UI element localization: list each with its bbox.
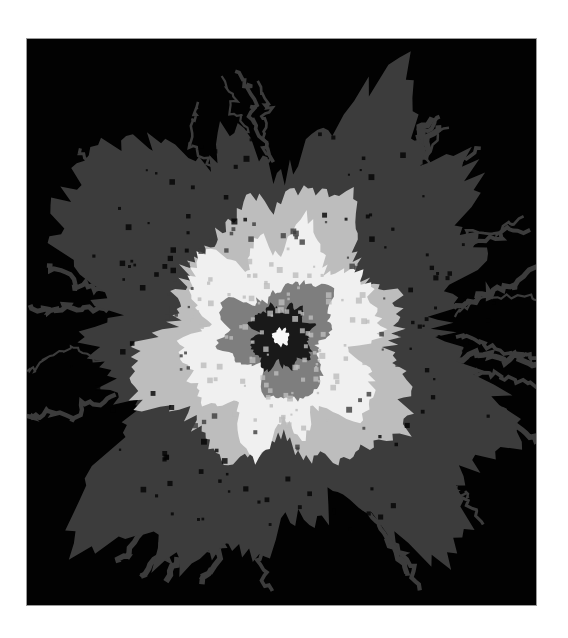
texture-speckle xyxy=(191,185,195,189)
texture-speckle xyxy=(321,332,326,337)
texture-speckle xyxy=(326,292,332,298)
texture-speckle xyxy=(168,256,173,261)
texture-speckle xyxy=(253,430,257,434)
texture-speckle xyxy=(345,218,348,221)
texture-speckle xyxy=(492,301,495,304)
texture-speckle xyxy=(384,246,386,248)
texture-speckle xyxy=(287,396,293,402)
texture-speckle xyxy=(227,293,230,296)
texture-speckle xyxy=(378,435,381,438)
texture-speckle xyxy=(426,253,429,256)
texture-speckle xyxy=(362,157,366,161)
texture-speckle xyxy=(148,222,150,224)
texture-speckle xyxy=(191,287,194,290)
texture-speckle xyxy=(243,296,246,299)
texture-speckle xyxy=(130,260,133,263)
texture-speckle xyxy=(207,378,213,384)
texture-speckle xyxy=(169,405,174,410)
texture-speckle xyxy=(350,317,355,322)
texture-speckle xyxy=(184,352,187,355)
texture-speckle xyxy=(319,353,325,359)
texture-speckle xyxy=(120,349,125,354)
texture-speckle xyxy=(326,419,328,421)
texture-speckle xyxy=(287,248,290,251)
texture-speckle xyxy=(422,195,424,197)
texture-speckle xyxy=(217,364,223,370)
texture-speckle xyxy=(207,282,210,285)
texture-speckle xyxy=(214,377,218,381)
texture-speckle xyxy=(270,404,273,407)
texture-speckle xyxy=(243,324,248,329)
texture-speckle xyxy=(202,518,205,521)
texture-speckle xyxy=(486,318,490,322)
texture-speckle xyxy=(199,469,204,474)
texture-speckle xyxy=(349,528,352,531)
texture-speckle xyxy=(234,165,238,169)
texture-speckle xyxy=(304,344,308,348)
texture-speckle xyxy=(171,512,174,515)
texture-speckle xyxy=(330,385,336,391)
texture-speckle xyxy=(111,407,116,412)
texture-speckle xyxy=(146,169,148,171)
texture-speckle xyxy=(347,257,349,259)
texture-speckle xyxy=(162,264,167,269)
texture-speckle xyxy=(218,479,221,482)
texture-speckle xyxy=(267,311,273,317)
texture-speckle xyxy=(315,366,317,368)
texture-speckle xyxy=(318,360,320,362)
texture-speckle xyxy=(281,415,285,419)
texture-speckle xyxy=(344,344,347,347)
texture-speckle xyxy=(358,398,362,402)
texture-speckle xyxy=(130,341,135,346)
texture-speckle xyxy=(398,333,401,336)
texture-speckle xyxy=(370,487,373,490)
texture-speckle xyxy=(269,523,272,526)
texture-speckle xyxy=(425,317,429,321)
texture-speckle xyxy=(430,266,434,270)
texture-speckle xyxy=(391,228,394,231)
texture-speckle xyxy=(463,298,466,301)
texture-speckle xyxy=(232,227,236,231)
texture-speckle xyxy=(250,357,256,363)
texture-speckle xyxy=(341,299,343,301)
texture-speckle xyxy=(362,427,365,430)
texture-speckle xyxy=(405,423,410,428)
texture-speckle xyxy=(186,214,190,218)
texture-speckle xyxy=(126,224,132,230)
texture-speckle xyxy=(286,422,292,428)
texture-speckle xyxy=(240,379,245,384)
texture-speckle xyxy=(187,231,190,234)
texture-speckle xyxy=(198,249,203,254)
texture-speckle xyxy=(309,316,313,320)
texture-speckle xyxy=(248,236,253,241)
texture-speckle xyxy=(188,306,190,308)
texture-speckle xyxy=(378,515,383,520)
texture-speckle xyxy=(290,414,292,416)
texture-speckle xyxy=(166,315,170,319)
texture-speckle xyxy=(317,392,319,394)
texture-speckle xyxy=(171,247,177,253)
texture-speckle xyxy=(191,319,193,321)
texture-speckle xyxy=(408,288,413,293)
texture-speckle xyxy=(367,346,370,349)
texture-speckle xyxy=(265,497,270,502)
texture-speckle xyxy=(318,132,322,136)
texture-speckle xyxy=(253,273,257,277)
texture-speckle xyxy=(169,179,175,185)
texture-speckle xyxy=(230,232,234,236)
texture-speckle xyxy=(258,302,260,304)
texture-speckle xyxy=(208,277,212,281)
texture-speckle xyxy=(277,267,283,273)
texture-speckle xyxy=(225,335,228,338)
texture-speckle xyxy=(462,350,465,353)
texture-speckle xyxy=(233,412,237,416)
texture-speckle xyxy=(300,239,305,244)
texture-speckle xyxy=(360,169,362,171)
texture-speckle xyxy=(175,313,178,316)
texture-speckle xyxy=(201,363,207,369)
texture-speckle xyxy=(391,503,396,508)
image-frame xyxy=(26,38,537,606)
texture-speckle xyxy=(180,354,183,357)
texture-speckle xyxy=(247,274,251,278)
texture-speckle xyxy=(307,274,311,278)
